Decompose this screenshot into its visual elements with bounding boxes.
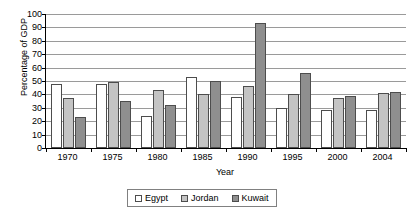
bar-jordan-1970: [63, 98, 74, 148]
bar-kuwait-2000: [345, 96, 356, 148]
x-axis-tick-label: 2000: [327, 152, 347, 162]
legend-swatch-kuwait: [232, 195, 239, 202]
legend-item-kuwait[interactable]: Kuwait: [232, 193, 269, 203]
bar-group: [231, 14, 266, 148]
bar-egypt-1985: [186, 77, 197, 148]
y-axis-tick-label: 40: [32, 90, 42, 99]
x-axis-title: Year: [45, 167, 405, 177]
bar-kuwait-1995: [300, 73, 311, 148]
bar-egypt-1995: [276, 108, 287, 148]
y-axis-tick-label: 10: [32, 130, 42, 139]
x-axis-tick-label: 1980: [147, 152, 167, 162]
legend-label: Kuwait: [242, 193, 269, 203]
bar-egypt-1990: [231, 97, 242, 148]
bar-kuwait-1990: [255, 23, 266, 148]
legend-swatch-egypt: [135, 195, 142, 202]
bar-jordan-2000: [333, 98, 344, 148]
y-axis-tick-label: 100: [27, 10, 42, 19]
legend-label: Egypt: [145, 193, 168, 203]
x-axis-tick-label: 2004: [372, 152, 392, 162]
bar-group: [276, 14, 311, 148]
x-axis-tick-labels: 19701975198019851990199520002004: [45, 152, 405, 166]
bar-egypt-1970: [51, 84, 62, 148]
bar-kuwait-1985: [210, 81, 221, 148]
x-axis-tick-label: 1975: [102, 152, 122, 162]
legend-item-jordan[interactable]: Jordan: [181, 193, 219, 203]
y-axis-tick-label: 60: [32, 63, 42, 72]
bar-group: [96, 14, 131, 148]
x-axis-tickmark: [406, 148, 407, 152]
y-axis-tick-label: 90: [32, 23, 42, 32]
bar-jordan-2004: [378, 93, 389, 148]
bars-layer: [46, 14, 406, 148]
bar-jordan-1975: [108, 82, 119, 148]
bar-group: [366, 14, 401, 148]
bar-egypt-1980: [141, 116, 152, 148]
y-axis-tick-label: 50: [32, 77, 42, 86]
bar-egypt-1975: [96, 84, 107, 148]
plot-area: [45, 14, 406, 149]
legend-swatch-jordan: [181, 195, 188, 202]
x-axis-tick-label: 1995: [282, 152, 302, 162]
legend: EgyptJordanKuwait: [127, 189, 277, 207]
bar-group: [321, 14, 356, 148]
bar-group: [51, 14, 86, 148]
y-axis-tick-label: 30: [32, 103, 42, 112]
y-axis-tick-label: 70: [32, 50, 42, 59]
legend-label: Jordan: [191, 193, 219, 203]
x-axis-tick-label: 1985: [192, 152, 212, 162]
bar-egypt-2000: [321, 110, 332, 148]
x-axis-tick-label: 1970: [57, 152, 77, 162]
y-axis-tick-label: 80: [32, 36, 42, 45]
bar-chart: Percentage of GDP 0102030405060708090100…: [0, 0, 414, 217]
y-axis-tick-label: 20: [32, 117, 42, 126]
bar-jordan-1990: [243, 86, 254, 148]
bar-group: [141, 14, 176, 148]
bar-jordan-1980: [153, 90, 164, 148]
legend-item-egypt[interactable]: Egypt: [135, 193, 168, 203]
bar-group: [186, 14, 221, 148]
y-axis-tick-labels: 0102030405060708090100: [20, 14, 42, 148]
bar-kuwait-1970: [75, 117, 86, 148]
bar-jordan-1985: [198, 94, 209, 148]
bar-kuwait-1980: [165, 105, 176, 148]
x-axis-tick-label: 1990: [237, 152, 257, 162]
bar-egypt-2004: [366, 110, 377, 148]
bar-kuwait-1975: [120, 101, 131, 148]
bar-kuwait-2004: [390, 92, 401, 148]
bar-jordan-1995: [288, 94, 299, 148]
